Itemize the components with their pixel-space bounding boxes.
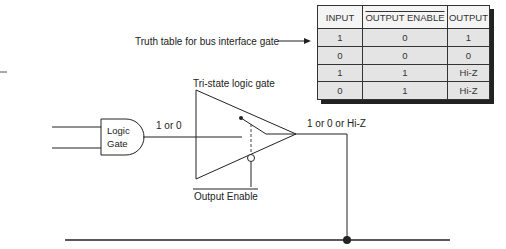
cell: Hi-Z: [448, 64, 490, 82]
cell: 1: [318, 29, 363, 47]
truth-table: INPUT OUTPUT ENABLE OUTPUT 1 0 1 0 0 0 1…: [317, 5, 490, 100]
cell: 1: [363, 82, 448, 100]
cell: 0: [318, 82, 363, 100]
cell: 1: [363, 64, 448, 82]
table-header-row: INPUT OUTPUT ENABLE OUTPUT: [318, 6, 490, 29]
bus-junction-icon: [343, 236, 351, 244]
table-row: 0 0 0: [318, 46, 490, 64]
gate-output-label: 1 or 0: [156, 120, 182, 131]
cell: 1: [318, 64, 363, 82]
output-enable-label: Output Enable: [194, 191, 258, 202]
tristate-output-label: 1 or 0 or Hi-Z: [307, 118, 366, 129]
logic-gate-label-1: Logic: [107, 125, 130, 136]
arrow-head-icon: [304, 38, 311, 44]
logic-gate-label-2: Gate: [107, 138, 128, 149]
cell: Hi-Z: [448, 82, 490, 100]
truth-table-caption: Truth table for bus interface gate: [135, 36, 279, 47]
header-output-enable: OUTPUT ENABLE: [363, 6, 448, 29]
table-row: 0 1 Hi-Z: [318, 82, 490, 100]
table-row: 1 0 1: [318, 29, 490, 47]
header-input: INPUT: [318, 6, 363, 29]
cell: 0: [363, 29, 448, 47]
table-row: 1 1 Hi-Z: [318, 64, 490, 82]
tristate-gate-label: Tri-state logic gate: [193, 78, 275, 89]
cell: 0: [448, 46, 490, 64]
cell: 0: [363, 46, 448, 64]
cell: 1: [448, 29, 490, 47]
cell: 0: [318, 46, 363, 64]
header-output: OUTPUT: [448, 6, 490, 29]
inversion-bubble-icon: [248, 155, 255, 162]
